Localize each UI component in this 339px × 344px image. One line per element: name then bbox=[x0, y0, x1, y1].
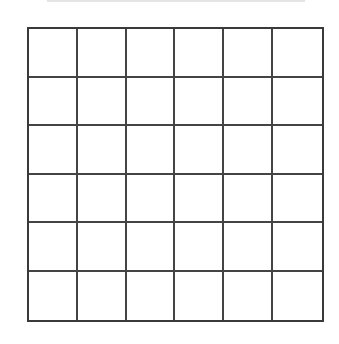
grid-cell-r5-c6 bbox=[273, 223, 322, 272]
grid-cell-r3-c6 bbox=[273, 126, 322, 175]
grid-cell-r2-c1 bbox=[29, 78, 78, 127]
grid-cell-r3-c4 bbox=[175, 126, 224, 175]
grid-cell-r6-c6 bbox=[273, 272, 322, 321]
grid-cell-r4-c3 bbox=[127, 175, 176, 224]
grid-cell-r3-c1 bbox=[29, 126, 78, 175]
grid-cell-r6-c5 bbox=[224, 272, 273, 321]
grid-cell-r5-c4 bbox=[175, 223, 224, 272]
grid-cell-r1-c4 bbox=[175, 29, 224, 78]
grid-cell-r1-c2 bbox=[78, 29, 127, 78]
grid-cell-r5-c1 bbox=[29, 223, 78, 272]
grid-cell-r1-c3 bbox=[127, 29, 176, 78]
canvas bbox=[0, 0, 339, 344]
grid-cell-r3-c2 bbox=[78, 126, 127, 175]
grid-cell-r5-c5 bbox=[224, 223, 273, 272]
grid-cell-r2-c2 bbox=[78, 78, 127, 127]
grid-cell-r4-c1 bbox=[29, 175, 78, 224]
grid-cell-r6-c4 bbox=[175, 272, 224, 321]
grid-cell-r2-c6 bbox=[273, 78, 322, 127]
grid-cell-r3-c3 bbox=[127, 126, 176, 175]
six-by-six-grid bbox=[27, 27, 324, 322]
grid-cell-r1-c6 bbox=[273, 29, 322, 78]
grid-cell-r4-c5 bbox=[224, 175, 273, 224]
grid-cell-r2-c3 bbox=[127, 78, 176, 127]
grid-cell-r4-c2 bbox=[78, 175, 127, 224]
grid-cell-r5-c2 bbox=[78, 223, 127, 272]
grid-cell-r1-c1 bbox=[29, 29, 78, 78]
grid-cell-r6-c1 bbox=[29, 272, 78, 321]
grid-cell-r2-c4 bbox=[175, 78, 224, 127]
grid-cell-r1-c5 bbox=[224, 29, 273, 78]
grid-cell-r4-c6 bbox=[273, 175, 322, 224]
grid-cell-r2-c5 bbox=[224, 78, 273, 127]
top-divider bbox=[47, 0, 305, 2]
grid-cell-r4-c4 bbox=[175, 175, 224, 224]
grid-cell-r6-c3 bbox=[127, 272, 176, 321]
grid-cell-r6-c2 bbox=[78, 272, 127, 321]
grid-cell-r5-c3 bbox=[127, 223, 176, 272]
grid-cell-r3-c5 bbox=[224, 126, 273, 175]
